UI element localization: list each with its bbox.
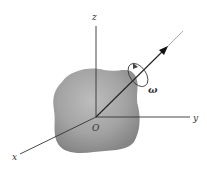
z-axis-label: z bbox=[91, 12, 97, 22]
rigid-body-diagram: z y x O ω bbox=[0, 0, 207, 183]
rigid-body-shape bbox=[53, 69, 139, 154]
y-axis-label: y bbox=[192, 113, 199, 123]
omega-axis-extension bbox=[166, 31, 183, 48]
x-axis-label: x bbox=[12, 152, 17, 162]
origin-label: O bbox=[92, 123, 100, 133]
omega-label: ω bbox=[148, 84, 158, 95]
